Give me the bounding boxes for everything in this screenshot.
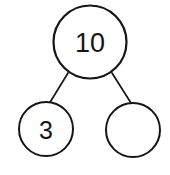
whole-value-label: 10 bbox=[75, 28, 105, 58]
connector-line-left bbox=[49, 73, 68, 104]
connector-line-right bbox=[112, 73, 131, 103]
part-circle-right[interactable] bbox=[106, 103, 160, 157]
number-bond-canvas: 10 3 bbox=[0, 0, 170, 175]
number-bond-diagram: 10 3 bbox=[0, 0, 170, 175]
part-left-value-label: 3 bbox=[39, 116, 53, 144]
